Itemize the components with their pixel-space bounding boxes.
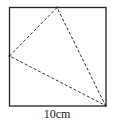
dashed-triangle [10, 8, 106, 106]
side-length-label: 10cm [0, 106, 114, 122]
vertex-top [56, 7, 58, 9]
vertex-left [9, 55, 11, 57]
square [10, 8, 107, 107]
